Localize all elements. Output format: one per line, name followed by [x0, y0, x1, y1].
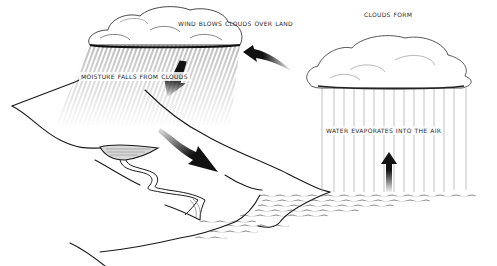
label-wind: Wind blows clouds over land	[178, 19, 293, 28]
label-clouds-form-text: Clouds form	[364, 10, 412, 19]
label-wind-text: Wind blows clouds over land	[178, 19, 293, 28]
label-moisture: Moisture falls from clouds	[79, 72, 190, 81]
wind-arrow	[243, 45, 293, 72]
runoff-arrow	[158, 128, 218, 172]
forming-cloud	[307, 36, 471, 89]
lake	[100, 145, 158, 160]
label-moisture-text: Moisture falls from clouds	[81, 72, 188, 81]
sea	[195, 195, 476, 239]
river	[120, 160, 205, 220]
label-evaporates-text: Water evaporates into the air	[326, 126, 441, 135]
evaporation	[322, 88, 466, 192]
rain	[55, 45, 240, 125]
label-clouds-form: Clouds form	[364, 10, 412, 19]
label-evaporates: Water evaporates into the air	[324, 126, 443, 135]
evaporation-arrow	[381, 152, 397, 192]
